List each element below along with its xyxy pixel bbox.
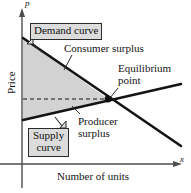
demand-curve-callout-label: Demand curve: [34, 24, 98, 36]
y-axis-variable-label: p: [25, 0, 30, 8]
demand-curve-callout: Demand curve: [30, 23, 102, 40]
producer-surplus-annotation: Producer surplus: [78, 115, 118, 140]
equilibrium-leader: [110, 88, 118, 98]
equilibrium-annotation-line1: Equilibrium: [118, 62, 171, 74]
equilibrium-point-annotation: Equilibrium point: [118, 62, 171, 87]
x-axis-title: Number of units: [57, 171, 129, 182]
consumer-surplus-annotation: Consumer surplus: [64, 43, 144, 54]
supply-demand-chart: p x Price Number of units Demand curve S…: [0, 0, 191, 193]
producer-surplus-annotation-line2: surplus: [78, 127, 118, 139]
x-axis-variable-label: x: [180, 155, 184, 164]
equilibrium-annotation-line2: point: [118, 74, 171, 86]
equilibrium-point-marker: [105, 96, 112, 103]
y-axis-title: Price: [6, 63, 17, 103]
supply-callout-pointer: [55, 117, 62, 126]
y-axis-arrowhead: [19, 8, 25, 17]
supply-curve-callout-label-line2: curve: [33, 142, 64, 154]
producer-surplus-annotation-line1: Producer: [78, 115, 118, 127]
supply-curve-callout: Supply curve: [28, 128, 69, 157]
